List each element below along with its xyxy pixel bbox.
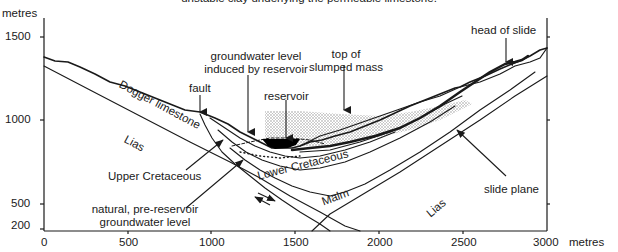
x-tick-2000: 2000 [367,236,393,249]
label-groundwater-induced-2: induced by reservoir [196,63,316,76]
x-tick-500: 500 [119,236,138,249]
x-tick-1000: 1000 [199,236,225,249]
label-groundwater-induced-1: groundwater level [196,50,316,63]
label-head-of-slide: head of slide [471,24,536,37]
label-upper-cretaceous: Upper Cretaceous [108,170,201,183]
label-natural-gw-1: natural, pre-reservoir [90,203,200,216]
y-tick-200: 200 [11,219,30,232]
label-fault: fault [189,82,211,95]
x-tick-3000: 3000 [533,236,559,249]
label-slide-plane: slide plane [484,183,539,196]
label-natural-gw-2: groundwater level [90,216,200,229]
natural-gw-arrow [186,160,243,208]
x-axis-unit: metres [569,236,604,249]
x-tick-2500: 2500 [451,236,477,249]
upper-cretaceous-arrow [186,140,223,170]
label-reservoir: reservoir [264,90,309,103]
y-axis-unit: metres [2,7,37,20]
y-tick-1500: 1500 [5,30,31,43]
y-tick-1000: 1000 [5,113,31,126]
x-tick-1500: 1500 [283,236,309,249]
label-top-of-slumped-2: slumped mass [306,61,386,74]
y-tick-500: 500 [11,197,30,210]
label-top-of-slumped-1: top of [306,48,386,61]
x-tick-0: 0 [41,236,47,249]
slide-plane-arrow [457,130,506,176]
